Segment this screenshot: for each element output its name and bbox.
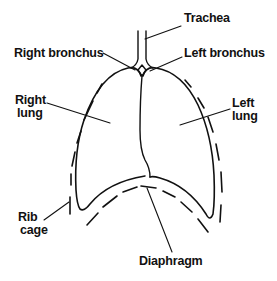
label-right-lung-line2: lung xyxy=(15,107,46,120)
label-diaphragm: Diaphragm xyxy=(139,255,203,268)
lung-medial-border xyxy=(140,76,150,177)
label-left-bronchus: Left bronchus xyxy=(184,47,265,60)
label-left-lung-line2: lung xyxy=(232,110,258,123)
left-lung-outline xyxy=(143,68,214,218)
label-left-lung: Left lung xyxy=(232,97,258,123)
label-right-bronchus: Right bronchus xyxy=(14,47,104,60)
label-rib-cage-line2: cage xyxy=(18,224,48,237)
lung-diagram xyxy=(0,0,277,281)
label-trachea: Trachea xyxy=(184,12,230,25)
label-right-lung: Right lung xyxy=(15,94,46,120)
label-rib-cage: Rib cage xyxy=(18,211,48,237)
rib-cage-outline xyxy=(70,80,222,232)
